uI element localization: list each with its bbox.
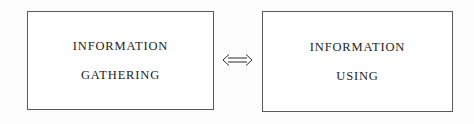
- node-information-using[interactable]: INFORMATION USING: [262, 11, 453, 112]
- node-gathering-label-line-2: GATHERING: [81, 69, 160, 82]
- node-gathering-label-line-1: INFORMATION: [73, 40, 168, 53]
- node-using-label-line-1: INFORMATION: [310, 41, 405, 54]
- double-headed-arrow-icon: [222, 49, 253, 71]
- diagram-canvas: INFORMATION GATHERING INFORMATION USING: [0, 0, 474, 124]
- node-information-gathering[interactable]: INFORMATION GATHERING: [27, 11, 214, 110]
- node-using-label-line-2: USING: [336, 70, 378, 83]
